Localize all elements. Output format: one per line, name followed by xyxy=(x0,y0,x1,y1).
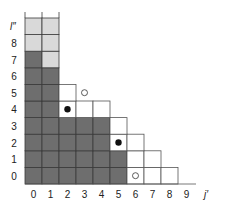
grid-cell xyxy=(42,101,59,118)
x-tick-label: 1 xyxy=(48,189,54,200)
grid-cell xyxy=(93,101,110,118)
grid-cell xyxy=(93,134,110,151)
grid-cell xyxy=(42,118,59,135)
grid-cell xyxy=(42,84,59,101)
grid-cell xyxy=(144,151,161,168)
grid-cell xyxy=(59,167,76,184)
x-tick-label: 6 xyxy=(133,189,139,200)
grid-cell xyxy=(42,35,59,52)
grid-cell xyxy=(76,134,93,151)
x-tick-label: 5 xyxy=(116,189,122,200)
grid-cell xyxy=(25,18,42,35)
young-diagram: 0123456789 012345678 j′ l″ xyxy=(0,0,229,210)
grid-cell xyxy=(93,118,110,135)
grid-cell xyxy=(144,167,161,184)
grid-cell xyxy=(110,167,127,184)
y-tick-label: 2 xyxy=(11,138,17,149)
grid-cell xyxy=(127,134,144,151)
grid-cell xyxy=(93,167,110,184)
grid-cell xyxy=(76,101,93,118)
y-tick-label: 1 xyxy=(11,154,17,165)
grid-cell xyxy=(25,101,42,118)
grid-cells xyxy=(25,18,178,184)
grid-cell xyxy=(25,118,42,135)
grid-cell xyxy=(59,118,76,135)
y-tick-label: 5 xyxy=(11,88,17,99)
grid-cell xyxy=(42,68,59,85)
grid-cell xyxy=(25,84,42,101)
filled-dot-marker xyxy=(115,139,121,145)
grid-extensions xyxy=(25,12,59,18)
grid-cell xyxy=(76,151,93,168)
x-axis-label: j′ xyxy=(202,189,209,200)
x-tick-label: 7 xyxy=(150,189,156,200)
grid-cell xyxy=(93,151,110,168)
grid-cell xyxy=(25,151,42,168)
y-tick-label: 4 xyxy=(11,104,17,115)
y-tick-label: 3 xyxy=(11,121,17,132)
grid-cell xyxy=(110,118,127,135)
grid-cell xyxy=(59,151,76,168)
grid-cell xyxy=(25,35,42,52)
x-tick-label: 3 xyxy=(82,189,88,200)
x-tick-labels: 0123456789 xyxy=(31,189,190,200)
grid-cell xyxy=(25,167,42,184)
y-tick-label: 8 xyxy=(11,38,17,49)
grid-cell xyxy=(42,167,59,184)
grid-cell xyxy=(76,167,93,184)
grid-cell xyxy=(42,51,59,68)
grid-cell xyxy=(76,118,93,135)
grid-cell xyxy=(25,134,42,151)
y-tick-labels: 012345678 xyxy=(11,38,17,182)
grid-cell xyxy=(127,167,144,184)
grid-cell xyxy=(25,51,42,68)
grid-cell xyxy=(42,134,59,151)
y-tick-label: 7 xyxy=(11,55,17,66)
grid-cell xyxy=(42,151,59,168)
y-tick-label: 6 xyxy=(11,71,17,82)
y-axis-label: l″ xyxy=(10,21,16,32)
grid-cell xyxy=(25,68,42,85)
grid-cell xyxy=(127,151,144,168)
x-tick-label: 4 xyxy=(99,189,105,200)
grid-cell xyxy=(59,134,76,151)
x-tick-label: 9 xyxy=(184,189,190,200)
grid-cell xyxy=(161,167,178,184)
grid-cell xyxy=(42,18,59,35)
x-tick-label: 0 xyxy=(31,189,37,200)
grid-cell xyxy=(59,84,76,101)
filled-dot-marker xyxy=(64,106,70,112)
open-circle-marker xyxy=(82,90,88,96)
x-tick-label: 2 xyxy=(65,189,71,200)
y-tick-label: 0 xyxy=(11,171,17,182)
x-tick-label: 8 xyxy=(167,189,173,200)
grid-cell xyxy=(110,151,127,168)
